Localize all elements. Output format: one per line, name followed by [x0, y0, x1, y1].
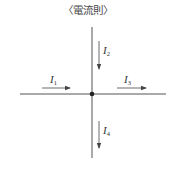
junction-dot [90, 92, 95, 97]
current-label-i4: I4 [103, 125, 110, 138]
current-label-i1: I1 [50, 74, 57, 87]
current-label-i2: I2 [103, 45, 110, 58]
current-label-i3: I3 [124, 74, 131, 87]
circuit-junction-diagram [0, 0, 175, 189]
